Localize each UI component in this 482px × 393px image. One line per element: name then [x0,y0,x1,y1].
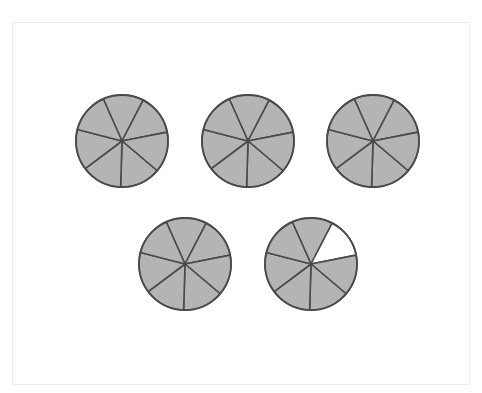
fraction-circle-1 [76,95,168,187]
fraction-circle-3 [327,95,419,187]
fraction-circle-2 [202,95,294,187]
fraction-circles-figure [0,0,482,393]
fraction-circle-4 [139,218,231,310]
fraction-circle-5 [265,218,357,310]
